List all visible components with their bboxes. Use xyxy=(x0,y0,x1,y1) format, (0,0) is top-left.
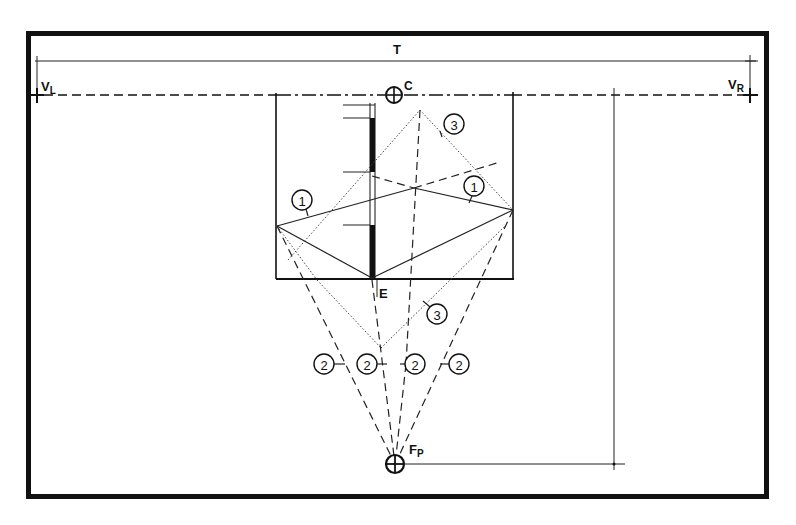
callout-3-top: 3 xyxy=(440,114,464,137)
sight-lines-to-focal-point xyxy=(277,210,513,458)
label-VL: VL xyxy=(41,79,56,96)
dashed-construction-upper xyxy=(372,110,497,364)
label-T: T xyxy=(393,42,401,57)
svg-text:2: 2 xyxy=(455,358,462,373)
svg-text:1: 1 xyxy=(298,194,305,209)
label-VR: VR xyxy=(728,77,745,94)
vertical-left-marker: VL xyxy=(31,79,56,103)
mirror-panel xyxy=(343,103,375,279)
callout-3-bottom: 3 xyxy=(423,301,447,324)
vertical-right-marker: VR xyxy=(728,77,758,103)
eye-point: E xyxy=(377,280,388,301)
label-E: E xyxy=(379,286,388,301)
dotted-construction-lines xyxy=(277,110,513,348)
svg-text:3: 3 xyxy=(450,118,457,133)
callout-2-b: 2 xyxy=(357,354,387,374)
svg-text:3: 3 xyxy=(433,308,440,323)
svg-text:2: 2 xyxy=(411,358,418,373)
callout-2-a: 2 xyxy=(314,354,345,374)
callout-2-c: 2 xyxy=(400,354,425,374)
svg-text:2: 2 xyxy=(363,358,370,373)
svg-text:2: 2 xyxy=(320,358,327,373)
focal-point-marker: FP xyxy=(386,442,424,473)
callout-1-left: 1 xyxy=(292,190,312,216)
label-C: C xyxy=(404,79,413,93)
callout-1-right: 1 xyxy=(464,176,484,203)
center-point-marker: C xyxy=(386,79,413,103)
svg-text:1: 1 xyxy=(470,180,477,195)
diagram-canvas: T VL VR C xyxy=(0,0,796,525)
label-FP: FP xyxy=(409,442,424,459)
